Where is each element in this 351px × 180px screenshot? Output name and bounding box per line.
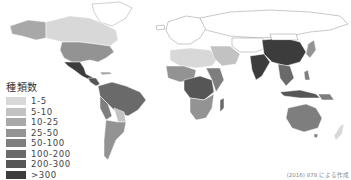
legend-swatch xyxy=(6,97,26,105)
legend-title: 種類数 xyxy=(6,79,71,94)
region-caribbean xyxy=(100,72,112,75)
legend-swatch xyxy=(6,150,26,158)
legend-label: 5-10 xyxy=(31,107,53,117)
region-mongolia xyxy=(270,34,298,40)
legend-item: 100-200 xyxy=(6,149,71,160)
map-legend: 種類数 1-5 5-10 10-25 25-50 50-100 100-200 … xyxy=(6,79,71,179)
legend-item: 10-25 xyxy=(6,117,71,128)
map-credit: (2016) 878 による作成 xyxy=(287,171,349,179)
region-tasmania xyxy=(314,134,318,138)
legend-item: 25-50 xyxy=(6,128,71,139)
legend-item: 200-300 xyxy=(6,159,71,170)
region-central-america xyxy=(88,78,100,86)
legend-swatch xyxy=(6,160,26,168)
legend-swatch xyxy=(6,139,26,147)
region-alaska xyxy=(10,20,46,40)
region-philippines xyxy=(304,70,310,80)
region-north-africa xyxy=(170,48,218,68)
region-indonesia xyxy=(280,90,320,98)
legend-label: 10-25 xyxy=(31,117,59,127)
region-mexico xyxy=(64,62,94,80)
region-central-africa xyxy=(184,76,214,100)
legend-swatch xyxy=(6,118,26,126)
legend-label: 25-50 xyxy=(31,128,59,138)
legend-item: 50-100 xyxy=(6,138,71,149)
region-iceland xyxy=(156,25,165,30)
region-papua xyxy=(318,94,334,100)
region-india xyxy=(250,54,270,80)
legend-label: 50-100 xyxy=(31,138,65,148)
legend-label: 100-200 xyxy=(31,149,71,159)
legend-label: 200-300 xyxy=(31,159,71,169)
legend-swatch xyxy=(6,129,26,137)
legend-label: >300 xyxy=(31,170,57,179)
region-europe xyxy=(166,16,206,44)
region-south-america-south xyxy=(104,120,126,160)
legend-swatch xyxy=(6,108,26,116)
region-japan xyxy=(306,40,316,58)
region-madagascar xyxy=(220,98,224,112)
legend-item: 1-5 xyxy=(6,96,71,107)
legend-swatch xyxy=(6,171,26,179)
legend-item: >300 xyxy=(6,170,71,180)
region-new-zealand xyxy=(334,124,344,140)
legend-item: 5-10 xyxy=(6,107,71,118)
region-australia xyxy=(286,104,322,132)
legend-label: 1-5 xyxy=(31,96,47,106)
region-southeast-asia xyxy=(278,64,294,86)
